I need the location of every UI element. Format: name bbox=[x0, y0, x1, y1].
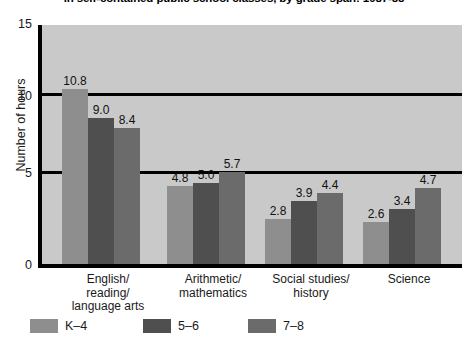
y-axis-title: Number of hours bbox=[14, 60, 28, 190]
bar-7-8: 4.7 bbox=[415, 188, 441, 264]
bar-value-label: 9.0 bbox=[93, 104, 110, 116]
bar-group-arithmetic: 4.8 5.0 5.7 bbox=[167, 21, 263, 264]
y-tick-0: 0 bbox=[8, 259, 32, 271]
bar-k4: 10.8 bbox=[62, 89, 88, 264]
legend-swatch-7-8 bbox=[248, 319, 276, 333]
legend-item-5-6[interactable]: 5–6 bbox=[143, 319, 199, 333]
bar-value-label: 10.8 bbox=[63, 75, 86, 87]
bar-value-label: 3.4 bbox=[394, 195, 411, 207]
bar-k4: 2.6 bbox=[363, 222, 389, 264]
bar-k4: 4.8 bbox=[167, 186, 193, 264]
bar-7-8: 5.7 bbox=[219, 172, 245, 264]
bar-value-label: 5.0 bbox=[198, 169, 215, 181]
category-label-science: Science bbox=[339, 273, 468, 287]
bar-value-label: 2.8 bbox=[270, 205, 287, 217]
bar-7-8: 8.4 bbox=[114, 128, 140, 264]
legend-item-7-8[interactable]: 7–8 bbox=[248, 319, 304, 333]
legend-swatch-k4 bbox=[30, 319, 58, 333]
bar-value-label: 4.7 bbox=[420, 174, 437, 186]
bar-group-social-studies: 2.8 3.9 4.4 bbox=[265, 21, 361, 264]
bar-value-label: 4.8 bbox=[172, 172, 189, 184]
chart-legend: K–4 5–6 7–8 bbox=[30, 319, 468, 339]
bar-group-english: 10.8 9.0 8.4 bbox=[62, 21, 158, 264]
bar-5-6: 5.0 bbox=[193, 183, 219, 264]
bar-7-8: 4.4 bbox=[317, 193, 343, 264]
y-tick-15: 15 bbox=[8, 18, 32, 30]
bar-chart-figure: in self-contained public school classes,… bbox=[0, 0, 468, 343]
bar-value-label: 3.9 bbox=[296, 187, 313, 199]
bar-group-science: 2.6 3.4 4.7 bbox=[363, 21, 459, 264]
bar-5-6: 3.9 bbox=[291, 201, 317, 264]
chart-title: in self-contained public school classes,… bbox=[0, 0, 468, 5]
bar-5-6: 9.0 bbox=[88, 118, 114, 264]
legend-label-5-6: 5–6 bbox=[178, 320, 199, 333]
legend-label-k4: K–4 bbox=[65, 320, 87, 333]
legend-label-7-8: 7–8 bbox=[283, 320, 304, 333]
bar-5-6: 3.4 bbox=[389, 209, 415, 264]
legend-item-k4[interactable]: K–4 bbox=[30, 319, 87, 333]
bar-value-label: 5.7 bbox=[224, 158, 241, 170]
bar-k4: 2.8 bbox=[265, 219, 291, 264]
plot-area: 10.8 9.0 8.4 4.8 5.0 5.7 2.8 bbox=[38, 25, 462, 268]
bar-value-label: 8.4 bbox=[119, 114, 136, 126]
bar-value-label: 4.4 bbox=[322, 179, 339, 191]
legend-swatch-5-6 bbox=[143, 319, 171, 333]
bar-value-label: 2.6 bbox=[368, 208, 385, 220]
